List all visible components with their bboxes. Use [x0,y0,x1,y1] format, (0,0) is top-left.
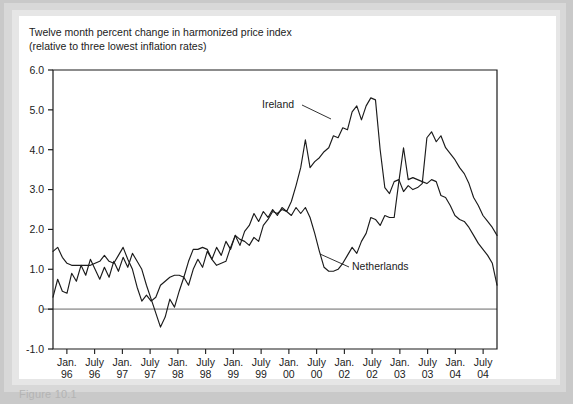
svg-text:Ireland: Ireland [262,98,294,110]
figure-page: Twelve month percent change in harmonize… [0,0,573,404]
svg-text:02: 02 [366,368,378,379]
svg-text:02: 02 [339,368,351,379]
x-axis-tick-labels: Jan.96July96Jan.97July97Jan.98July98Jan.… [57,356,493,379]
y-axis-ticks [48,70,53,349]
svg-text:3.0: 3.0 [29,183,44,195]
svg-text:-1.0: -1.0 [26,343,44,355]
data-series-group [53,98,497,327]
svg-text:96: 96 [61,368,73,379]
svg-text:Jan.: Jan. [57,356,77,368]
line-chart-svg: IrelandNetherlands 6.05.04.03.02.01.00-1… [19,16,556,379]
svg-text:96: 96 [89,368,101,379]
svg-text:1.0: 1.0 [29,263,44,275]
svg-text:July: July [363,356,382,368]
svg-text:July: July [196,356,215,368]
x-axis-ticks [67,349,483,354]
svg-text:03: 03 [422,368,434,379]
svg-text:Jan.: Jan. [223,356,243,368]
svg-text:03: 03 [394,368,406,379]
plot-area: IrelandNetherlands 6.05.04.03.02.01.00-1… [19,16,556,379]
svg-text:98: 98 [172,368,184,379]
figure-caption-partial: Figure 10.1 [19,388,269,404]
svg-text:Jan.: Jan. [112,356,132,368]
svg-text:98: 98 [200,368,212,379]
svg-text:Jan.: Jan. [445,356,465,368]
svg-text:04: 04 [450,368,462,379]
svg-text:July: July [141,356,160,368]
svg-text:2.0: 2.0 [29,223,44,235]
svg-text:99: 99 [228,368,240,379]
svg-text:July: July [85,356,104,368]
y-axis-tick-labels: 6.05.04.03.02.01.00-1.0 [26,64,44,355]
series-annotations: IrelandNetherlands [262,98,409,272]
svg-text:Jan.: Jan. [279,356,299,368]
svg-text:04: 04 [477,368,489,379]
svg-text:99: 99 [255,368,267,379]
svg-text:Jan.: Jan. [390,356,410,368]
svg-text:Jan.: Jan. [334,356,354,368]
svg-text:Netherlands: Netherlands [352,260,409,272]
svg-text:July: July [418,356,437,368]
svg-text:97: 97 [117,368,129,379]
svg-text:97: 97 [144,368,156,379]
svg-text:July: July [252,356,271,368]
svg-text:6.0: 6.0 [29,64,44,76]
svg-text:0: 0 [38,303,44,315]
svg-text:00: 00 [311,368,323,379]
svg-text:July: July [474,356,493,368]
svg-text:July: July [307,356,326,368]
svg-text:4.0: 4.0 [29,144,44,156]
plot-frame [53,70,497,349]
svg-text:Jan.: Jan. [168,356,188,368]
figure-card: Twelve month percent change in harmonize… [19,16,556,379]
svg-text:00: 00 [283,368,295,379]
svg-text:5.0: 5.0 [29,104,44,116]
